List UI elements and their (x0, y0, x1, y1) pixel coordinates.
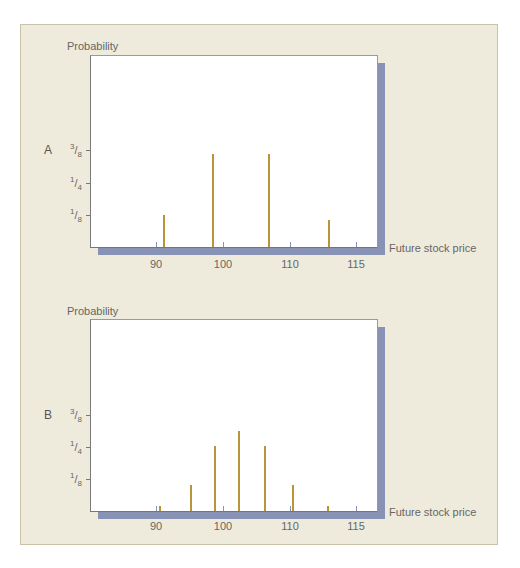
y-tick (86, 415, 90, 416)
x-tick (290, 506, 291, 511)
y-axis-title: Probability (67, 305, 118, 317)
probability-bar (159, 506, 161, 511)
x-axis-title: Future stock price (389, 506, 476, 518)
plot-area (90, 319, 378, 512)
panel-letter: B (44, 408, 52, 422)
plot-shadow-right (377, 327, 385, 519)
x-tick (156, 506, 157, 511)
probability-bar (292, 485, 294, 511)
plot-shadow-bottom (98, 511, 385, 519)
probability-bar (327, 506, 329, 511)
chart-b: Probability B 3/8 1/4 1/8 90 100 110 115… (0, 0, 520, 270)
probability-bar (238, 431, 240, 511)
x-tick-label: 100 (208, 520, 238, 532)
y-tick-label: 1/4 (58, 439, 82, 456)
y-tick (86, 447, 90, 448)
probability-bar (214, 446, 216, 511)
x-tick-label: 90 (141, 520, 171, 532)
x-tick (223, 506, 224, 511)
y-tick-label: 1/8 (58, 471, 82, 488)
probability-bar (190, 485, 192, 511)
x-tick (356, 506, 357, 511)
probability-bar (264, 446, 266, 511)
y-tick (86, 479, 90, 480)
x-tick-label: 115 (341, 520, 371, 532)
x-tick-label: 110 (275, 520, 305, 532)
y-tick-label: 3/8 (58, 407, 82, 424)
